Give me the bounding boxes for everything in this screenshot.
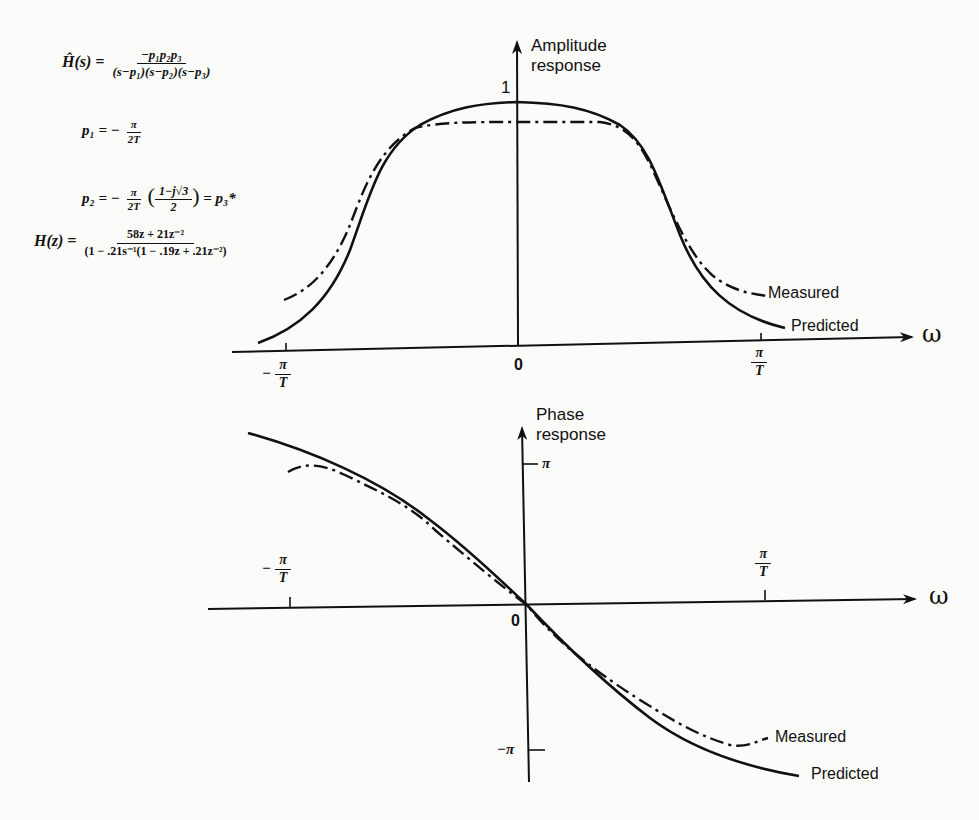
equation-p2-paren-den: 2 bbox=[167, 200, 181, 214]
equation-p1-frac-num: π bbox=[127, 119, 141, 133]
tick-num: π bbox=[755, 547, 771, 564]
phase-y-tick-neg-pi: −π bbox=[497, 741, 514, 758]
amplitude-x-axis-label: ω bbox=[922, 320, 942, 348]
equation-p1-lhs: p₁ = − bbox=[82, 122, 120, 138]
phase-y-axis-label-line2: response bbox=[536, 425, 606, 445]
plot-canvas bbox=[0, 0, 979, 820]
phase-y-tick-pi: π bbox=[542, 455, 550, 472]
equation-p2: p₂ = − π 2T ( 1−j√3 2 ) = p₃* bbox=[82, 183, 236, 214]
equation-h-hat-numerator: −p₁p₂p₃ bbox=[137, 48, 186, 64]
phase-x-axis-label: ω bbox=[929, 582, 949, 610]
equation-h-z-lhs: H(z) = bbox=[34, 232, 76, 249]
tick-den: T bbox=[275, 570, 292, 586]
phase-x-axis bbox=[208, 599, 915, 609]
equation-p2-frac-num: π bbox=[127, 187, 141, 201]
amplitude-x-tick-pi-over-t: π T bbox=[751, 346, 768, 378]
phase-legend-predicted: Predicted bbox=[811, 764, 879, 784]
tick-num: π bbox=[275, 553, 291, 570]
equation-h-hat-lhs: Ĥ(s) = bbox=[62, 53, 104, 70]
amplitude-x-axis bbox=[232, 337, 912, 352]
equation-h-z-numerator: 58z + 21z⁻² bbox=[117, 228, 194, 244]
amplitude-legend-predicted: Predicted bbox=[791, 316, 859, 336]
equation-p1-frac-den: 2T bbox=[124, 133, 144, 146]
amplitude-legend-measured: Measured bbox=[768, 283, 839, 303]
amplitude-origin-label: 0 bbox=[514, 356, 523, 374]
tick-num: π bbox=[275, 358, 291, 375]
tick-den: T bbox=[751, 363, 768, 379]
phase-legend-measured: Measured bbox=[775, 727, 846, 747]
tick-sign: − bbox=[262, 560, 271, 576]
amplitude-predicted-curve bbox=[258, 102, 785, 343]
tick-den: T bbox=[755, 564, 772, 580]
tick-num: π bbox=[751, 346, 767, 363]
amplitude-measured-curve bbox=[284, 122, 768, 300]
amplitude-y-axis bbox=[517, 42, 518, 345]
equation-p2-frac-den: 2T bbox=[124, 200, 144, 213]
amplitude-x-tick-neg-pi-over-t: − π T bbox=[262, 358, 291, 390]
phase-x-tick-neg-pi-over-t: − π T bbox=[262, 553, 291, 585]
amplitude-plot bbox=[232, 42, 912, 352]
amplitude-y-axis-label-line2: response bbox=[531, 56, 607, 76]
amplitude-y-axis-label: Amplitude response bbox=[531, 36, 607, 76]
amplitude-y-tick-1: 1 bbox=[501, 78, 510, 98]
equation-h-z-denominator: (1 − .21s⁻¹(1 − .19z + .21z⁻²) bbox=[80, 244, 230, 258]
equation-p1: p₁ = − π 2T bbox=[82, 119, 144, 145]
tick-sign: − bbox=[262, 365, 271, 381]
phase-x-tick-pi-over-t: π T bbox=[755, 547, 772, 579]
phase-origin-label: 0 bbox=[511, 612, 520, 630]
equation-h-z: H(z) = 58z + 21z⁻² (1 − .21s⁻¹(1 − .19z … bbox=[34, 228, 230, 257]
equation-p2-paren-num: 1−j√3 bbox=[155, 185, 192, 200]
phase-y-axis-label-line1: Phase bbox=[536, 405, 606, 425]
amplitude-y-axis-label-line1: Amplitude bbox=[531, 36, 607, 56]
equation-p2-rhs: = p₃* bbox=[203, 190, 236, 206]
equation-h-hat-denominator: (s−p₁)(s−p₂)(s−p₃) bbox=[108, 64, 214, 79]
equation-p2-lhs: p₂ = − bbox=[82, 190, 120, 206]
equation-h-hat: Ĥ(s) = −p₁p₂p₃ (s−p₁)(s−p₂)(s−p₃) bbox=[62, 48, 214, 78]
tick-den: T bbox=[275, 375, 292, 391]
phase-y-axis-label: Phase response bbox=[536, 405, 606, 445]
